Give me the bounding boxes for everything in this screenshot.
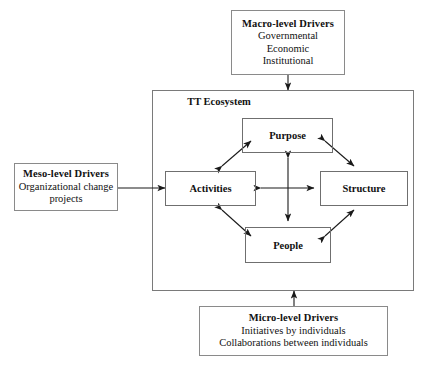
meso-level-drivers-line-1: Organizational change <box>19 181 114 193</box>
meso-level-drivers-box[interactable]: Meso-level Drivers Organizational change… <box>14 163 118 211</box>
micro-level-drivers-line-1: Initiatives by individuals <box>241 325 345 337</box>
micro-level-drivers-line-2: Collaborations between individuals <box>219 337 368 349</box>
node-activities-label: Activities <box>190 183 232 194</box>
node-purpose[interactable]: Purpose <box>242 118 333 153</box>
node-structure-label: Structure <box>343 183 386 194</box>
meso-level-drivers-line-2: projects <box>49 193 82 205</box>
macro-level-drivers-line-3: Institutional <box>263 55 314 67</box>
meso-level-drivers-title: Meso-level Drivers <box>23 168 109 180</box>
tt-ecosystem-title-text: TT Ecosystem <box>187 96 251 107</box>
macro-level-drivers-title: Macro-level Drivers <box>242 18 334 30</box>
node-activities[interactable]: Activities <box>165 171 256 206</box>
diagram-canvas: TT Ecosystem <box>0 0 438 366</box>
macro-level-drivers-line-2: Economic <box>267 43 310 55</box>
micro-level-drivers-title: Micro-level Drivers <box>249 312 338 324</box>
tt-ecosystem-title: TT Ecosystem <box>0 96 438 107</box>
micro-level-drivers-box[interactable]: Micro-level Drivers Initiatives by indiv… <box>199 306 388 356</box>
node-purpose-label: Purpose <box>269 130 306 141</box>
node-people[interactable]: People <box>245 227 331 263</box>
node-structure[interactable]: Structure <box>320 171 408 206</box>
node-people-label: People <box>273 240 303 251</box>
macro-level-drivers-line-1: Governmental <box>258 30 318 42</box>
macro-level-drivers-box[interactable]: Macro-level Drivers Governmental Economi… <box>231 10 345 75</box>
